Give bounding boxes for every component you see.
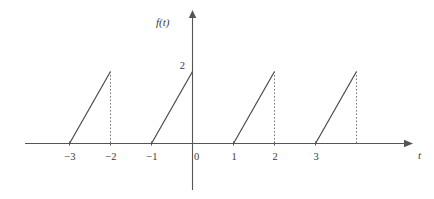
x-tick-label-0: 0	[194, 152, 208, 163]
x-axis-label: t	[418, 150, 421, 161]
ramp-segment	[70, 72, 111, 144]
y-tick-label-2: 2	[167, 61, 185, 72]
x-tick-label-3: 3	[306, 152, 326, 163]
x-tick-label-2: 2	[265, 152, 285, 163]
ramp-segment	[152, 72, 193, 144]
sawtooth-ramps	[70, 72, 357, 144]
dashed-drop-lines	[111, 72, 357, 144]
sawtooth-wave-figure: f(t) t 2 0 −3 −2 −1 1 2 3	[0, 0, 434, 199]
x-tick-label-minus2: −2	[100, 152, 122, 163]
x-axis-arrowhead	[404, 140, 413, 147]
x-tick-label-minus3: −3	[59, 152, 81, 163]
y-axis-label: f(t)	[156, 17, 169, 28]
x-tick-label-1: 1	[224, 152, 244, 163]
plot-canvas	[0, 0, 434, 199]
ramp-segment	[316, 72, 357, 144]
ramp-segment	[234, 72, 275, 144]
x-tick-label-minus1: −1	[141, 152, 163, 163]
y-axis-arrowhead	[189, 10, 196, 18]
